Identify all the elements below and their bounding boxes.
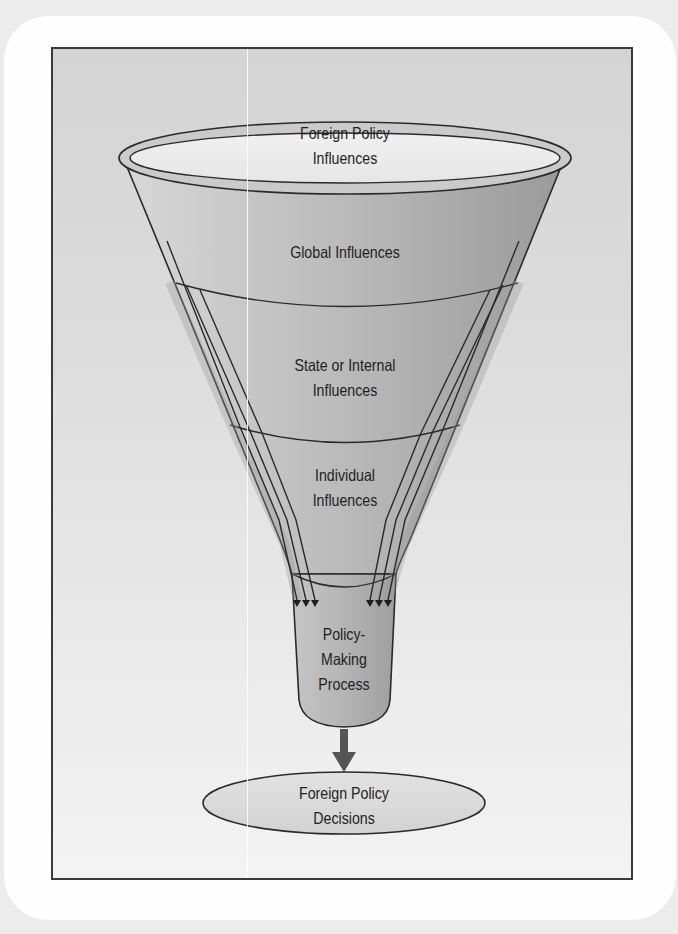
level-individual-line1: Individual (259, 463, 431, 488)
spout-line3: Process (292, 672, 395, 697)
output-line1: Foreign Policy (258, 781, 430, 806)
level-global-line1: Global Influences (242, 240, 448, 265)
rim-label-line1: Foreign Policy (259, 121, 431, 146)
scan-artifact-line (247, 49, 248, 878)
level-state-label: State or Internal Influences (242, 353, 448, 403)
level-individual-label: Individual Influences (259, 463, 431, 513)
level-global-label: Global Influences (242, 240, 448, 265)
level-individual-line2: Influences (259, 488, 431, 513)
rim-label-line2: Influences (259, 146, 431, 171)
output-line2: Decisions (258, 806, 430, 831)
rim-label: Foreign Policy Influences (259, 121, 431, 171)
spout-label: Policy- Making Process (292, 622, 395, 697)
level-state-line2: Influences (242, 378, 448, 403)
level-state-line1: State or Internal (242, 353, 448, 378)
spout-line1: Policy- (292, 622, 395, 647)
output-label: Foreign Policy Decisions (258, 781, 430, 831)
page: Foreign Policy Influences Global Influen… (0, 0, 678, 934)
spout-line2: Making (292, 647, 395, 672)
down-arrow-icon (332, 729, 356, 772)
